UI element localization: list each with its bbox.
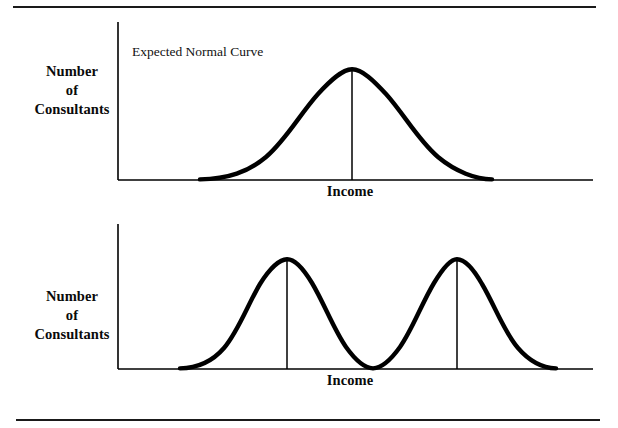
bottom-divider-rule [16, 419, 600, 421]
y-axis-label-line-2: of [20, 306, 124, 325]
normal-distribution-curve [200, 69, 492, 179]
top-divider-rule [13, 6, 596, 8]
y-axis-label-line-3: Consultants [20, 100, 124, 119]
y-axis-label-line-1: Number [20, 287, 124, 306]
y-axis-label-line-2: of [20, 81, 124, 100]
bimodal-distribution-curve [180, 259, 556, 368]
y-axis-label-actual: Number of Consultants [20, 287, 124, 344]
figure-root: Expected Normal Curve Number of Consulta… [0, 0, 618, 428]
expected-curve-caption: Expected Normal Curve [132, 44, 263, 60]
y-axis-label-line-1: Number [20, 62, 124, 81]
y-axis-label-expected: Number of Consultants [20, 62, 124, 119]
x-axis-label-expected: Income [270, 183, 430, 200]
x-axis-label-actual: Income [270, 372, 430, 389]
y-axis-label-line-3: Consultants [20, 325, 124, 344]
